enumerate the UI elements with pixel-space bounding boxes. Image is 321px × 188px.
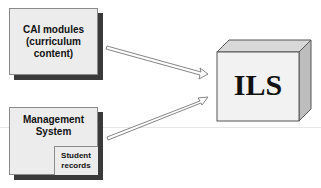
ils-label: ILS: [217, 68, 299, 102]
arrow-mgmt-to-ils: [107, 97, 208, 140]
arrow-cai-to-ils: [106, 46, 208, 79]
diagram-canvas: CAI modules (curriculum content) Managem…: [0, 0, 321, 188]
